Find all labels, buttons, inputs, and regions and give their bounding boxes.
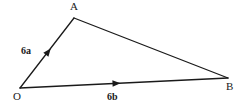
- edge-OB: [20, 78, 228, 88]
- vector-label-6a: 6a: [21, 46, 31, 56]
- vertex-label-b: B: [226, 81, 234, 92]
- arrowhead-OB-icon: [112, 80, 120, 87]
- vector-label-6b: 6b: [107, 92, 118, 102]
- vertex-label-o: O: [13, 91, 21, 102]
- edge-AB: [74, 18, 228, 78]
- vertex-label-a: A: [70, 1, 78, 12]
- vector-triangle-figure: A O B 6a 6b: [0, 0, 244, 108]
- vector-diagram-svg: [0, 0, 244, 108]
